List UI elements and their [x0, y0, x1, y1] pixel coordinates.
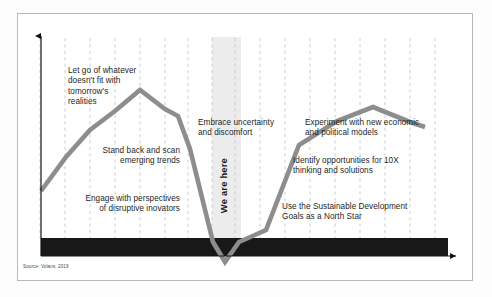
annotation-embrace: Embrace uncertainty and discomfort: [198, 118, 308, 139]
annotation-stand-back: Stand back and scan emerging trends: [68, 146, 180, 167]
annotation-let-go: Let go of whatever doesn't fit with tomo…: [68, 66, 166, 108]
figure-frame: Let go of whatever doesn't fit with tomo…: [17, 13, 473, 281]
figure-canvas: Let go of whatever doesn't fit with tomo…: [0, 0, 492, 297]
annotation-sdg: Use the Sustainable Development Goals as…: [282, 202, 442, 223]
highlight-band-label: We are here: [218, 158, 229, 213]
annotation-identify: Identify opportunities for 10X thinking …: [293, 156, 443, 177]
annotation-experiment: Experiment with new economic and politic…: [305, 118, 455, 139]
plot-area: Let go of whatever doesn't fit with tomo…: [18, 14, 474, 282]
annotation-engage: Engage with perspectives of disruptive i…: [60, 194, 180, 215]
source-caption: Source: Volans, 2019: [23, 264, 69, 269]
